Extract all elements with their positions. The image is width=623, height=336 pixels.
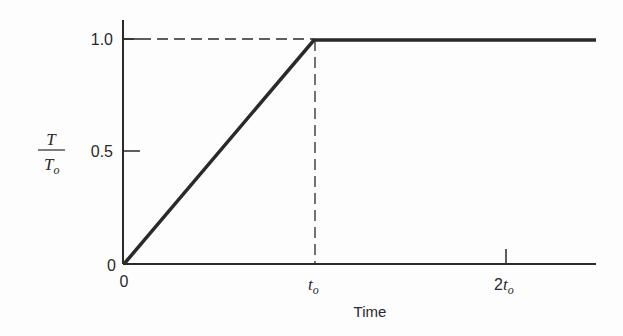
y-tick-label-1: 1.0 bbox=[91, 31, 113, 48]
y-tick-label-05: 0.5 bbox=[91, 143, 113, 160]
x-tick-label-2to: 2to bbox=[494, 275, 514, 297]
ramp-chart: 1.0 0.5 0 0 to 2to Time T To bbox=[0, 0, 623, 336]
series-line bbox=[124, 40, 596, 264]
x-tick-label-0: 0 bbox=[120, 273, 129, 290]
x-tick-label-to: to bbox=[308, 275, 319, 297]
y-axis-title-numerator: T bbox=[46, 130, 57, 149]
y-tick-label-0: 0 bbox=[107, 257, 116, 274]
y-axis-title-denominator: To bbox=[44, 155, 59, 177]
x-axis-title: Time bbox=[354, 303, 387, 320]
y-axis-title: T To bbox=[38, 130, 65, 177]
